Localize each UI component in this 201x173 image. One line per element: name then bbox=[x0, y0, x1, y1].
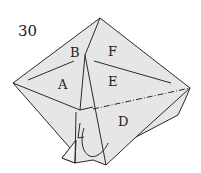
label-f: F bbox=[108, 44, 117, 59]
diagram-canvas: 30 B F A E D bbox=[0, 0, 201, 173]
label-e: E bbox=[108, 74, 118, 89]
label-d: D bbox=[118, 114, 128, 129]
label-a: A bbox=[57, 77, 68, 92]
label-b: B bbox=[70, 45, 80, 60]
origami-diagram: 30 B F A E D bbox=[0, 0, 201, 173]
step-number: 30 bbox=[18, 22, 37, 40]
